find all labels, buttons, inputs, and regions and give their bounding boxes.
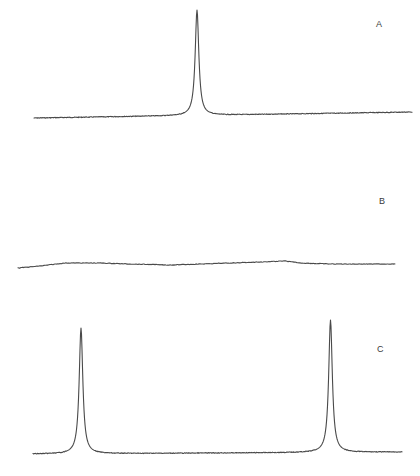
spectrum-c-trace — [33, 320, 402, 454]
spectrum-a-trace — [34, 10, 412, 118]
panel-label-b: B — [379, 197, 385, 206]
panel-label-a: A — [376, 20, 382, 29]
spectrum-b-trace — [18, 261, 395, 268]
panel-label-c: C — [377, 345, 384, 354]
spectra-figure — [0, 0, 420, 476]
